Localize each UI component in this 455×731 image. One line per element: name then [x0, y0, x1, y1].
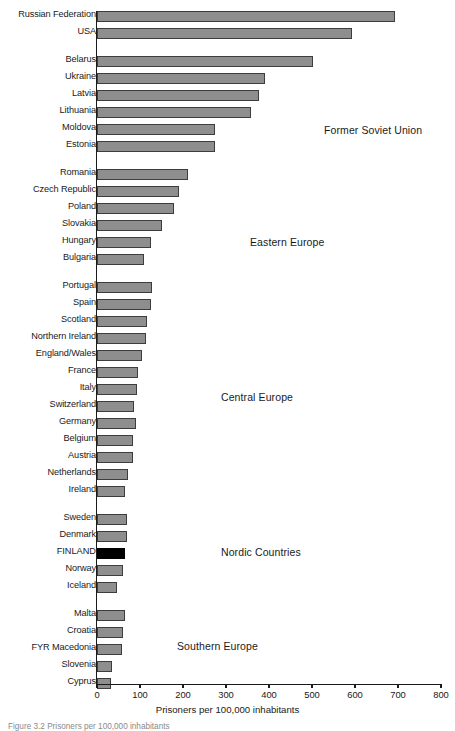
- x-axis-title: Prisoners per 100,000 inhabitants: [0, 704, 455, 715]
- bar: [97, 350, 142, 361]
- bar-row: Russian Federation: [0, 11, 455, 22]
- x-tick-label: 700: [390, 689, 406, 700]
- x-tick-label: 200: [175, 689, 191, 700]
- bar-row: Iceland: [0, 582, 455, 593]
- bar: [97, 254, 144, 265]
- bar: [97, 124, 215, 135]
- x-tick-mark: [397, 684, 398, 688]
- bar-label: Italy: [80, 382, 96, 393]
- bar: [97, 452, 133, 463]
- bar-row: Bulgaria: [0, 254, 455, 265]
- bar: [97, 384, 137, 395]
- bar-row: France: [0, 367, 455, 378]
- bar: [97, 565, 123, 576]
- bar-row: Netherlands: [0, 469, 455, 480]
- bar-label: Portugal: [63, 280, 96, 291]
- x-tick-mark: [440, 684, 441, 688]
- bar-row: Poland: [0, 203, 455, 214]
- bar-row: Portugal: [0, 282, 455, 293]
- bar: [97, 186, 179, 197]
- bar-label: Belarus: [66, 54, 96, 65]
- x-tick-label: 0: [94, 689, 99, 700]
- bar: [97, 56, 313, 67]
- bar-row: Belarus: [0, 56, 455, 67]
- bar-label: Norway: [65, 563, 96, 574]
- bar-label: Belgium: [64, 433, 97, 444]
- group-label: Central Europe: [221, 391, 293, 403]
- bar: [97, 11, 395, 22]
- bar-label: Iceland: [67, 580, 96, 591]
- bar-row: Croatia: [0, 627, 455, 638]
- bar: [97, 90, 259, 101]
- bar-label: Lithuania: [60, 105, 96, 116]
- x-tick-mark: [182, 684, 183, 688]
- bar-label: Moldova: [62, 122, 96, 133]
- bar-row: Czech Republic: [0, 186, 455, 197]
- bar-label: Netherlands: [48, 467, 96, 478]
- plot-area: Russian FederationUSABelarusUkraineLatvi…: [0, 0, 455, 690]
- bar-row: Romania: [0, 169, 455, 180]
- bar: [97, 514, 127, 525]
- x-tick-label: 100: [132, 689, 148, 700]
- bar-label: Russian Federation: [18, 9, 96, 20]
- bar-row: Spain: [0, 299, 455, 310]
- bar: [97, 203, 174, 214]
- group-label: Southern Europe: [177, 640, 258, 652]
- bar-label: Scotland: [61, 314, 96, 325]
- bar-label: Austria: [68, 450, 96, 461]
- prison-rate-bar-chart: Russian FederationUSABelarusUkraineLatvi…: [0, 0, 455, 731]
- x-tick-mark: [268, 684, 269, 688]
- x-tick-mark: [225, 684, 226, 688]
- bar-label: Romania: [60, 167, 96, 178]
- bar-label: Estonia: [66, 139, 96, 150]
- bar: [97, 107, 251, 118]
- bar-row: Sweden: [0, 514, 455, 525]
- bar-row: Austria: [0, 452, 455, 463]
- bar: [97, 73, 265, 84]
- bar-row: Belgium: [0, 435, 455, 446]
- bar-label: Germany: [59, 416, 96, 427]
- x-tick-mark: [311, 684, 312, 688]
- bar: [97, 401, 134, 412]
- bar: [97, 299, 151, 310]
- bar-row: Slovenia: [0, 661, 455, 672]
- bar-label: Poland: [68, 201, 96, 212]
- x-tick-mark: [139, 684, 140, 688]
- bar: [97, 237, 151, 248]
- x-tick-mark: [354, 684, 355, 688]
- bar-row: Ireland: [0, 486, 455, 497]
- bar-label: Bulgaria: [63, 252, 96, 263]
- bar: [97, 169, 188, 180]
- group-label: Eastern Europe: [250, 236, 324, 248]
- bar-row: Lithuania: [0, 107, 455, 118]
- bar-label: France: [68, 365, 96, 376]
- bar: [97, 469, 128, 480]
- bar: [97, 367, 138, 378]
- bar: [97, 486, 125, 497]
- bar-row: Northern Ireland: [0, 333, 455, 344]
- x-tick-label: 500: [304, 689, 320, 700]
- x-tick-label: 400: [261, 689, 277, 700]
- bar-row: Slovakia: [0, 220, 455, 231]
- bar-row: Hungary: [0, 237, 455, 248]
- x-tick-label: 300: [218, 689, 234, 700]
- bar-label: Hungary: [62, 235, 96, 246]
- bar: [97, 531, 127, 542]
- group-label: Former Soviet Union: [324, 124, 422, 136]
- bar-label: Latvia: [72, 88, 96, 99]
- bar-label: Switzerland: [50, 399, 96, 410]
- bar: [97, 316, 147, 327]
- bar: [97, 435, 133, 446]
- bar: [97, 333, 146, 344]
- bar-row: Scotland: [0, 316, 455, 327]
- bar-row: Germany: [0, 418, 455, 429]
- bar-label: Spain: [73, 297, 96, 308]
- bar: [97, 220, 162, 231]
- bar-label: Ireland: [69, 484, 96, 495]
- bar-row: Ukraine: [0, 73, 455, 84]
- x-tick-label: 600: [347, 689, 363, 700]
- bar: [97, 141, 215, 152]
- bar-label: Slovakia: [62, 218, 96, 229]
- bar-label: Slovenia: [62, 659, 96, 670]
- bar-row: England/Wales: [0, 350, 455, 361]
